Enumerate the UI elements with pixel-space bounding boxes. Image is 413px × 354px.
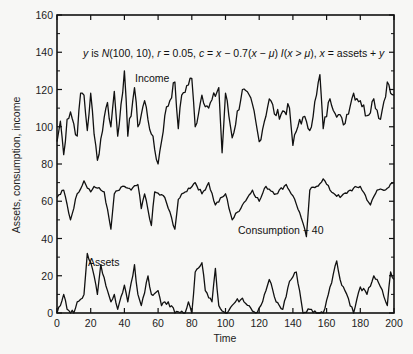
- y-tick-label: 20: [41, 270, 53, 282]
- x-axis-title: Time: [214, 332, 237, 344]
- consumption-label: Consumption − 40: [238, 224, 324, 236]
- y-tick-label: 100: [35, 121, 53, 133]
- x-tick-label: 80: [186, 317, 198, 329]
- plot-frame: [57, 15, 394, 313]
- y-tick-label: 60: [41, 195, 53, 207]
- x-tick-label: 120: [250, 317, 268, 329]
- x-tick-label: 180: [352, 317, 370, 329]
- y-tick-label: 120: [35, 84, 53, 96]
- x-tick-label: 200: [385, 317, 403, 329]
- y-tick-label: 160: [35, 9, 53, 21]
- x-tick-label: 20: [85, 317, 97, 329]
- series-lines: [57, 71, 394, 313]
- x-tick-label: 140: [284, 317, 302, 329]
- income-label: Income: [135, 72, 170, 84]
- y-tick-label: 0: [47, 307, 53, 319]
- x-axis-ticks: 020406080100120140160180200: [54, 15, 403, 329]
- x-tick-label: 160: [318, 317, 336, 329]
- chart: 020406080100120140160 020406080100120140…: [0, 0, 413, 354]
- assets-label: Assets: [88, 256, 120, 268]
- series-line-consumption: [57, 179, 394, 237]
- x-tick-label: 0: [54, 317, 60, 329]
- x-tick-label: 40: [119, 317, 131, 329]
- x-tick-label: 60: [152, 317, 164, 329]
- y-axis-title: Assets, consumption, income: [10, 97, 22, 234]
- y-tick-label: 80: [41, 158, 53, 170]
- annotation: y is N(100, 10), r = 0.05, c = x − 0.7(x…: [82, 47, 385, 59]
- y-tick-label: 40: [41, 233, 53, 245]
- y-tick-label: 140: [35, 46, 53, 58]
- x-tick-label: 100: [217, 317, 235, 329]
- series-line-income: [57, 71, 394, 164]
